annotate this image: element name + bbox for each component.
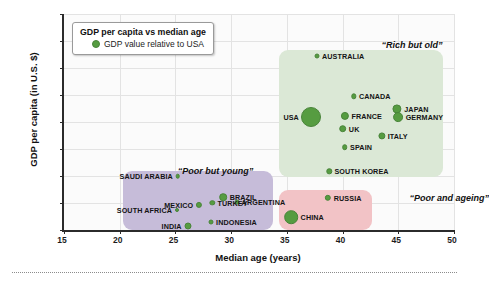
x-axis-tick-mark (398, 230, 399, 234)
x-axis-tick-label: 45 (392, 235, 401, 245)
x-axis-tick-mark (231, 230, 232, 234)
data-point-label: CHINA (301, 213, 324, 222)
data-bubble[interactable] (285, 211, 299, 225)
legend-title: GDP per capita vs median age (80, 27, 206, 37)
y-axis-tick-mark (60, 95, 64, 96)
data-point-label: GERMANY (406, 113, 443, 122)
x-axis-tick-mark (120, 230, 121, 234)
data-bubble[interactable] (175, 208, 179, 212)
data-bubble[interactable] (342, 145, 348, 151)
x-axis-title: Median age (years) (62, 252, 454, 263)
data-bubble[interactable] (184, 222, 191, 229)
data-bubble[interactable] (339, 125, 347, 133)
data-point-label: INDONESIA (216, 217, 257, 226)
x-axis-tick-label: 40 (336, 235, 345, 245)
data-bubble[interactable] (209, 219, 214, 224)
data-bubble[interactable] (175, 174, 180, 179)
cluster-region-label: “Poor but young” (178, 166, 254, 176)
legend-entry-label: GDP value relative to USA (104, 39, 204, 49)
data-point-label: CANADA (359, 92, 391, 101)
y-axis-tick-mark (60, 14, 64, 15)
chart-legend: GDP per capita vs median age GDP value r… (72, 22, 214, 55)
y-axis-tick-mark (60, 203, 64, 204)
x-axis-tick-mark (287, 230, 288, 234)
y-axis-tick-mark (60, 122, 64, 123)
data-point-label: RUSSIA (334, 193, 362, 202)
x-axis-tick-label: 25 (169, 235, 178, 245)
data-point-label: AUSTRALIA (322, 51, 364, 60)
x-axis-tick-mark (175, 230, 176, 234)
legend-entry: GDP value relative to USA (80, 39, 206, 49)
cluster-region-label: “Poor and ageing” (409, 193, 489, 203)
y-axis-tick-mark (60, 149, 64, 150)
data-point-label: SAUDI ARABIA (120, 172, 173, 181)
data-bubble[interactable] (301, 107, 321, 127)
cluster-region-label: “Rich but old” (382, 40, 443, 50)
footer-divider (12, 272, 457, 273)
data-point-label: INDIA (162, 221, 182, 230)
y-axis-title: GDP per capita (in U.S. $) (28, 15, 39, 205)
x-axis-tick-label: 30 (224, 235, 233, 245)
y-axis-tick-mark (60, 41, 64, 42)
data-point-label: UK (349, 124, 360, 133)
x-axis-tick-label: 50 (447, 235, 456, 245)
y-axis-tick-mark (60, 176, 64, 177)
x-axis-tick-label: 15 (57, 235, 66, 245)
gridline-horizontal (64, 14, 454, 15)
data-point-label: SPAIN (350, 143, 372, 152)
data-point-label: SOUTH AFRICA (117, 206, 172, 215)
x-axis-tick-mark (64, 230, 65, 234)
x-axis-tick-mark (454, 230, 455, 234)
x-axis-tick-label: 35 (280, 235, 289, 245)
data-point-label: USA (283, 112, 298, 121)
data-bubble[interactable] (314, 53, 319, 58)
data-point-label: ARGENTINA (242, 197, 286, 206)
data-bubble[interactable] (393, 112, 403, 122)
data-point-label: ITALY (388, 132, 408, 141)
bubble-swatch-icon (92, 40, 100, 48)
y-axis-tick-mark (60, 68, 64, 69)
data-point-label: TURKEY (217, 199, 247, 208)
x-axis-tick-mark (343, 230, 344, 234)
data-point-label: SOUTH KOREA (334, 167, 388, 176)
data-point-label: FRANCE (351, 111, 382, 120)
x-axis-tick-label: 20 (113, 235, 122, 245)
